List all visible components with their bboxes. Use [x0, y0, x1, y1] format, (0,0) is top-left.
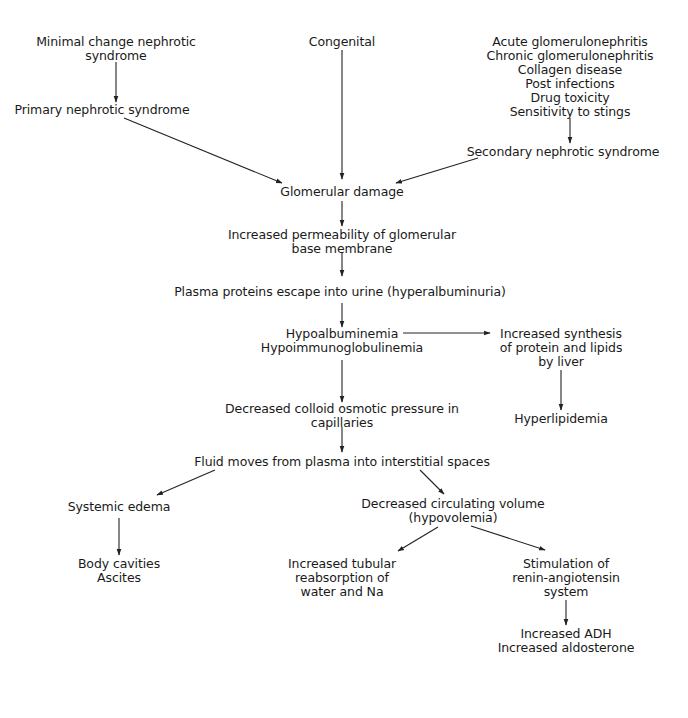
node-text: Systemic edema	[68, 500, 171, 514]
node-text: Increased synthesis	[500, 327, 623, 341]
node-plasma-proteins: Plasma proteins escape into urine (hyper…	[174, 285, 506, 299]
node-text: Increased ADH	[498, 627, 635, 641]
node-minimal-change: Minimal change nephrotic syndrome	[36, 35, 196, 63]
node-text: by liver	[500, 355, 623, 369]
arrow-hypovolemia-to-renin	[471, 526, 545, 550]
node-text: Acute glomerulonephritis	[487, 35, 654, 49]
node-text: Sensitivity to stings	[487, 105, 654, 119]
node-text: of protein and lipids	[500, 341, 623, 355]
node-text: reabsorption of	[288, 571, 396, 585]
node-tubular-reabsorption: Increased tubular reabsorption of water …	[288, 557, 396, 599]
arrow-hypovolemia-to-tubular	[398, 527, 438, 551]
node-text: Minimal change nephrotic	[36, 35, 196, 49]
node-fluid-moves: Fluid moves from plasma into interstitia…	[194, 455, 490, 469]
node-text: capillaries	[225, 416, 459, 430]
node-text: Plasma proteins escape into urine (hyper…	[174, 285, 506, 299]
node-liver-synthesis: Increased synthesis of protein and lipid…	[500, 327, 623, 369]
node-hypoalbuminemia: Hypoalbuminemia Hypoimmunoglobulinemia	[261, 327, 423, 355]
node-text: base membrane	[228, 242, 456, 256]
node-text: Congenital	[309, 35, 375, 49]
node-renin-angiotensin: Stimulation of renin-angiotensin system	[512, 557, 620, 599]
node-text: Increased aldosterone	[498, 641, 635, 655]
node-adh-aldosterone: Increased ADH Increased aldosterone	[498, 627, 635, 655]
node-hypovolemia: Decreased circulating volume (hypovolemi…	[361, 497, 544, 525]
node-hyperlipidemia: Hyperlipidemia	[514, 412, 607, 426]
node-text: Hypoimmunoglobulinemia	[261, 341, 423, 355]
node-text: Decreased colloid osmotic pressure in	[225, 402, 459, 416]
node-text: Decreased circulating volume	[361, 497, 544, 511]
node-colloid-pressure: Decreased colloid osmotic pressure in ca…	[225, 402, 459, 430]
node-glomerular-damage: Glomerular damage	[280, 185, 403, 199]
arrow-fluid-to-hypovolemia	[420, 470, 444, 494]
nephrotic-syndrome-flowchart: Minimal change nephrotic syndrome Congen…	[0, 0, 688, 718]
node-secondary-causes: Acute glomerulonephritis Chronic glomeru…	[487, 35, 654, 119]
arrow-primary-to-glomerular	[124, 118, 282, 183]
node-text: Fluid moves from plasma into interstitia…	[194, 455, 490, 469]
node-text: system	[512, 585, 620, 599]
node-text: Glomerular damage	[280, 185, 403, 199]
node-secondary-nephrotic: Secondary nephrotic syndrome	[467, 145, 660, 159]
node-permeability: Increased permeability of glomerular bas…	[228, 228, 456, 256]
arrow-fluid-to-edema	[157, 470, 215, 495]
node-text: Increased permeability of glomerular	[228, 228, 456, 242]
node-text: Body cavities	[78, 557, 160, 571]
node-text: Hypoalbuminemia	[261, 327, 423, 341]
node-primary-nephrotic: Primary nephrotic syndrome	[14, 103, 189, 117]
node-text: Secondary nephrotic syndrome	[467, 145, 660, 159]
node-congenital: Congenital	[309, 35, 375, 49]
node-text: Ascites	[78, 571, 160, 585]
node-text: syndrome	[36, 49, 196, 63]
node-text: Post infections	[487, 77, 654, 91]
node-body-cavities: Body cavities Ascites	[78, 557, 160, 585]
node-text: Drug toxicity	[487, 91, 654, 105]
node-text: renin-angiotensin	[512, 571, 620, 585]
node-text: Stimulation of	[512, 557, 620, 571]
node-text: (hypovolemia)	[361, 511, 544, 525]
node-text: Primary nephrotic syndrome	[14, 103, 189, 117]
node-systemic-edema: Systemic edema	[68, 500, 171, 514]
node-text: Hyperlipidemia	[514, 412, 607, 426]
node-text: Chronic glomerulonephritis	[487, 49, 654, 63]
arrow-secondary-to-glomerular	[396, 158, 478, 183]
node-text: Collagen disease	[487, 63, 654, 77]
node-text: water and Na	[288, 585, 396, 599]
node-text: Increased tubular	[288, 557, 396, 571]
